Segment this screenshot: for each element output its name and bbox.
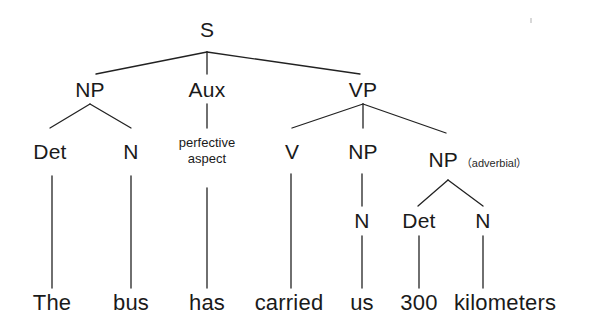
node-np-adverbial: NP (429, 148, 458, 172)
edge-vp-v (292, 104, 363, 128)
node-aux-gloss: perfective aspect (179, 135, 235, 168)
node-np-adverbial-group: NP （adverbial） (429, 148, 528, 172)
word-kilometers: kilometers (454, 291, 556, 314)
scan-speck (530, 18, 532, 23)
node-det-subject: Det (33, 141, 66, 163)
np-adverbial-note: （adverbial） (461, 154, 528, 170)
word-bus: bus (113, 291, 149, 314)
node-np-object: NP (348, 141, 378, 163)
word-carried: carried (255, 291, 324, 314)
edge-np-det (50, 104, 90, 128)
edge-vp-npadv (363, 104, 446, 133)
edge-np-n (90, 104, 131, 128)
node-np-subject: NP (75, 79, 105, 101)
aux-gloss-line-2: aspect (179, 151, 235, 167)
syntax-tree-diagram: S NP Aux VP Det N perfective aspect V NP… (0, 0, 592, 328)
edge-s-vp (207, 52, 360, 74)
node-v: V (285, 141, 299, 163)
node-n-object: N (354, 210, 369, 232)
edge-npadv-det (418, 180, 448, 206)
node-det-adverbial: Det (402, 210, 435, 232)
word-has: has (189, 291, 225, 314)
edge-npadv-n (448, 180, 483, 206)
edge-s-np (96, 52, 207, 74)
word-300: 300 (400, 291, 437, 314)
node-vp: VP (349, 79, 377, 101)
node-s: S (200, 19, 214, 41)
node-n-adverbial: N (475, 210, 490, 232)
node-aux: Aux (189, 79, 226, 101)
node-n-subject: N (123, 141, 138, 163)
aux-gloss-line-1: perfective (179, 135, 235, 151)
word-the: The (33, 291, 72, 314)
word-us: us (350, 291, 374, 314)
